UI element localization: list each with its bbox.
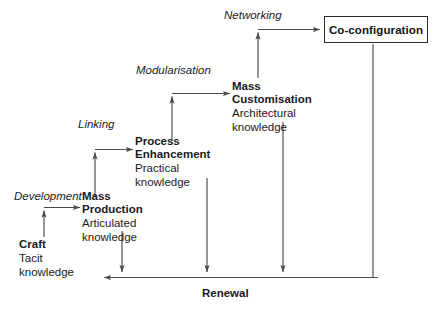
node-process-enhancement-sub-1: Practical xyxy=(135,162,179,176)
node-craft-title: Craft xyxy=(19,238,46,252)
node-mass-customisation-sub-1: Architectural xyxy=(232,107,296,121)
node-co-configuration-title: Co-configuration xyxy=(329,24,423,36)
node-mass-customisation-sub-2: knowledge xyxy=(232,121,287,135)
node-mass-production-sub-1: Articulated xyxy=(82,217,136,231)
node-process-enhancement-title-1: Process xyxy=(135,135,180,149)
node-mass-customisation-title-2: Customisation xyxy=(232,93,312,107)
knowledge-evolution-diagram: Development Linking Modularisation Netwo… xyxy=(0,0,438,311)
stage-label-linking: Linking xyxy=(78,118,114,132)
node-co-configuration-box: Co-configuration xyxy=(324,16,428,43)
node-mass-customisation-title-1: Mass xyxy=(232,80,261,94)
node-process-enhancement-sub-2: knowledge xyxy=(135,176,190,190)
node-craft-sub-2: knowledge xyxy=(19,266,74,280)
node-process-enhancement-title-2: Enhancement xyxy=(135,148,210,162)
node-mass-production-title-1: Mass xyxy=(82,190,111,204)
stage-label-modularisation: Modularisation xyxy=(136,64,211,78)
stage-label-development: Development xyxy=(14,190,82,204)
stage-label-networking: Networking xyxy=(224,9,282,23)
node-craft-sub-1: Tacit xyxy=(19,252,43,266)
diagram-connectors xyxy=(0,0,438,311)
node-mass-production-title-2: Production xyxy=(82,203,143,217)
renewal-axis-label: Renewal xyxy=(202,287,249,301)
node-mass-production-sub-2: knowledge xyxy=(82,231,137,245)
